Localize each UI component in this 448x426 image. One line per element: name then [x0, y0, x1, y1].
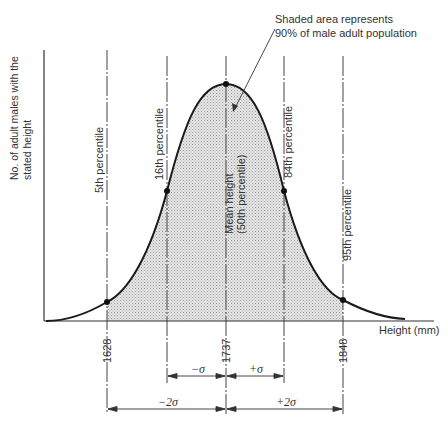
label-84th-percentile: 84th percentile: [282, 106, 294, 178]
dot-95th: [340, 297, 346, 303]
value-1848: 1848: [337, 339, 349, 363]
annotation-line1: Shaded area represents: [275, 13, 394, 25]
normal-distribution-diagram: Shaded area represents 90% of male adult…: [0, 0, 448, 426]
label-minus-2sigma: −2σ: [158, 395, 179, 409]
y-axis-label-line2: stated height: [21, 120, 33, 180]
label-plus-2sigma: +2σ: [276, 395, 297, 409]
value-1628: 1628: [101, 339, 113, 363]
label-plus-sigma: +σ: [249, 362, 264, 376]
value-1737: 1737: [220, 339, 232, 363]
label-95th-percentile: 95th percentile: [341, 189, 353, 261]
label-50th-percentile: (50th percentile): [235, 155, 247, 235]
y-axis-label-line1: No. of adult males with the: [8, 56, 20, 180]
label-5th-percentile: 5th percentile: [93, 127, 105, 193]
x-axis-label: Height (mm): [379, 324, 440, 336]
label-16th-percentile: 16th percentile: [153, 108, 165, 180]
label-mean-height: Mean height: [223, 173, 235, 234]
annotation-arrow-line: [235, 29, 275, 108]
dot-mean: [223, 81, 229, 87]
dot-5th: [104, 299, 110, 305]
annotation-line2: 90% of male adult population: [275, 27, 417, 39]
dot-16th: [164, 188, 170, 194]
label-minus-sigma: −σ: [191, 362, 206, 376]
dot-84th: [281, 188, 287, 194]
